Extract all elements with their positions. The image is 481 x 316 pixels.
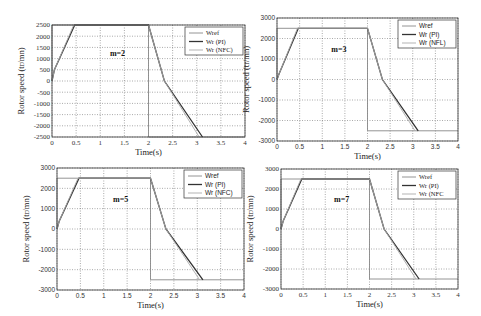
svg-text:0: 0 [279,291,283,299]
svg-text:1.5: 1.5 [343,291,352,299]
x-tick-labels: 00.511.522.533.54 [279,291,460,299]
legend-entry: Wref [419,173,433,180]
svg-text:-1000: -1000 [263,245,280,253]
annotation-label: m=7 [334,195,349,204]
svg-text:0.5: 0.5 [299,291,308,299]
y-axis-label: Rotor speed (tr/mn) [245,195,255,262]
legend-entry: Wr (PI) [419,182,439,190]
svg-text:1000: 1000 [265,205,280,213]
x-axis-label: Time(s) [356,299,383,309]
svg-text:2.5: 2.5 [387,291,396,299]
svg-text:2000: 2000 [265,185,280,193]
svg-text:0: 0 [276,225,280,233]
legend-entry: Wr (NFC [419,190,443,198]
svg-text:3: 3 [412,291,416,299]
legend: WrefWr (PI)Wr (NFC [398,171,456,199]
svg-text:1: 1 [324,291,328,299]
chart-m7: 00.511.522.533.543000200010000-1000-2000… [0,0,481,316]
svg-text:2: 2 [368,291,372,299]
svg-text:-2000: -2000 [263,265,280,273]
y-tick-labels: 3000200010000-1000-2000-3000 [263,165,280,293]
svg-text:-3000: -3000 [263,285,280,293]
svg-text:3.5: 3.5 [432,291,441,299]
svg-text:4: 4 [456,291,460,299]
svg-text:3000: 3000 [265,165,280,173]
